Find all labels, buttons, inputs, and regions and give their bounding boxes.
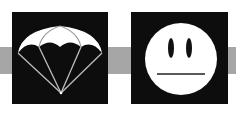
neutral-face-icon	[131, 12, 228, 104]
parachute-tile	[12, 12, 108, 104]
parachute-icon	[12, 12, 108, 104]
right-eye-icon	[186, 38, 192, 58]
left-eye-icon	[168, 38, 174, 58]
face-tile	[131, 12, 228, 104]
